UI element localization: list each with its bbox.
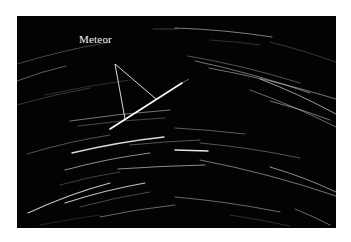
star-trail bbox=[175, 28, 272, 37]
star-trail bbox=[175, 197, 280, 212]
star-trails bbox=[17, 28, 336, 226]
star-trail bbox=[270, 42, 336, 62]
leader-line bbox=[115, 64, 125, 119]
star-trail bbox=[295, 209, 330, 225]
star-trail bbox=[27, 135, 110, 154]
star-trail bbox=[175, 150, 208, 151]
star-trail bbox=[60, 172, 120, 185]
star-trail bbox=[70, 110, 170, 121]
star-trail bbox=[188, 56, 300, 83]
annotation-leader-lines bbox=[115, 64, 156, 119]
star-trail bbox=[200, 143, 300, 158]
star-trail bbox=[118, 165, 205, 169]
star-trail bbox=[40, 215, 100, 225]
star-trail bbox=[17, 88, 90, 105]
meteor-label: Meteor bbox=[79, 33, 112, 45]
star-trail bbox=[100, 205, 175, 217]
star-trail bbox=[17, 42, 110, 64]
star-trail bbox=[230, 215, 290, 226]
star-trail bbox=[80, 192, 150, 207]
star-trail bbox=[175, 128, 245, 134]
star-trail bbox=[45, 80, 130, 95]
star-trail bbox=[17, 66, 66, 81]
meteor-tail bbox=[182, 79, 189, 83]
trail-overlay bbox=[0, 0, 351, 242]
star-trail bbox=[270, 167, 336, 192]
star-trail bbox=[28, 183, 110, 213]
star-trail bbox=[210, 40, 260, 45]
star-trail bbox=[200, 160, 336, 196]
star-trail bbox=[130, 140, 200, 145]
